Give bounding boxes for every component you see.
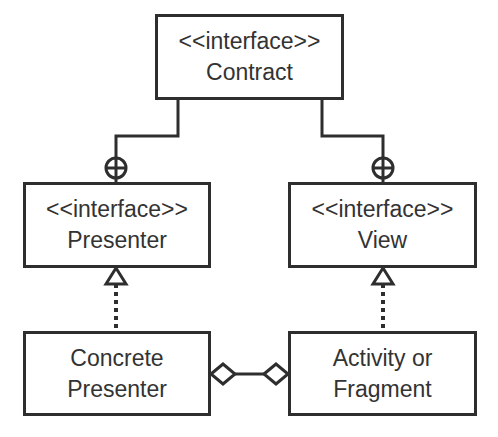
activity-line1: Activity or (333, 343, 433, 374)
realization-triangle-presenter-icon (106, 268, 126, 284)
contract-stereotype: <<interface>> (179, 26, 321, 57)
concrete-presenter-line2: Presenter (67, 374, 167, 405)
aggregation-diamond-left-icon (211, 364, 235, 384)
nesting-edge-presenter (116, 99, 178, 158)
aggregation-diamond-right-icon (264, 364, 288, 384)
contract-name: Contract (206, 57, 293, 88)
concrete-presenter-box: Concrete Presenter (23, 331, 211, 416)
presenter-name: Presenter (67, 225, 167, 256)
view-interface-box: <<interface>> View (288, 182, 477, 268)
contract-interface-box: <<interface>> Contract (155, 14, 344, 100)
view-stereotype: <<interface>> (312, 194, 454, 225)
activity-fragment-box: Activity or Fragment (288, 331, 477, 416)
presenter-stereotype: <<interface>> (46, 194, 188, 225)
view-name: View (358, 225, 407, 256)
presenter-interface-box: <<interface>> Presenter (23, 182, 211, 268)
concrete-presenter-line1: Concrete (70, 343, 163, 374)
nesting-edge-view (322, 99, 383, 158)
realization-triangle-view-icon (373, 268, 393, 284)
activity-line2: Fragment (333, 374, 431, 405)
